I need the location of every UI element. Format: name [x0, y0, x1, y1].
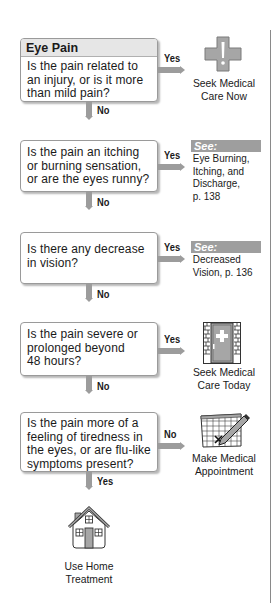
- question-line: Is the pain an itching: [27, 145, 139, 159]
- reference-line: Itching, and: [191, 165, 254, 178]
- question-line: than mild pain?: [27, 86, 110, 100]
- no-arrow: [86, 192, 92, 206]
- reference-line: Eye Burning,: [191, 152, 254, 165]
- reference-line: Discharge,: [191, 177, 254, 190]
- reference-page: p. 138: [191, 190, 254, 203]
- calendar-appointment-icon: [199, 410, 251, 448]
- question-line: symptoms present?: [27, 457, 133, 471]
- yes-arrow: [158, 67, 180, 73]
- question-box-itching: Is the pain an itching or burning sensat…: [20, 140, 158, 192]
- no-arrow: [158, 443, 180, 449]
- flowchart-title: Eye Pain: [21, 39, 157, 57]
- see-tag: See:: [191, 241, 261, 253]
- reference-line: Decreased: [191, 253, 254, 266]
- clinic-door-icon: [203, 322, 241, 364]
- yes-arrow: [158, 348, 180, 354]
- question-line: Is there any decrease: [27, 242, 145, 256]
- outcome-make-appointment: Make Medical Appointment: [188, 452, 260, 478]
- yes-arrow: [158, 256, 180, 262]
- question-line: Is the pain related to: [27, 59, 138, 73]
- no-label: No: [97, 288, 109, 300]
- question-line: in vision?: [27, 256, 78, 270]
- question-line: or are the eyes runny?: [27, 172, 149, 186]
- question-text: Is the pain related to an injury, or is …: [21, 57, 157, 105]
- outcome-seek-care-now: Seek Medical Care Now: [188, 77, 260, 103]
- yes-label: Yes: [164, 333, 180, 345]
- yes-arrow: [86, 472, 92, 486]
- question-box-severe: Is the pain severe or prolonged beyond 4…: [20, 322, 158, 376]
- medical-cross-icon: [204, 36, 242, 72]
- question-text: Is the pain more of a feeling of tiredne…: [21, 413, 157, 475]
- no-arrow: [86, 376, 92, 390]
- home-icon: [67, 505, 111, 549]
- question-box-injury: Eye Pain Is the pain related to an injur…: [20, 38, 158, 102]
- no-label: No: [164, 428, 176, 440]
- no-label: No: [97, 196, 109, 208]
- outcome-line: Make Medical: [192, 452, 257, 465]
- no-label: No: [97, 104, 109, 116]
- no-arrow: [86, 102, 92, 116]
- outcome-line: Care Now: [192, 90, 257, 103]
- page-margin-rule: [270, 30, 271, 603]
- yes-label: Yes: [97, 475, 113, 487]
- question-text: Is the pain an itching or burning sensat…: [21, 141, 157, 191]
- question-line: 48 hours?: [27, 354, 81, 368]
- yes-label: Yes: [164, 241, 180, 253]
- question-text: Is the pain severe or prolonged beyond 4…: [21, 323, 157, 373]
- see-tag: See:: [191, 140, 261, 152]
- outcome-line: Care Today: [192, 379, 257, 392]
- question-line: Is the pain severe or: [27, 327, 138, 341]
- outcome-home-treatment: Use Home Treatment: [53, 560, 125, 586]
- see-reference-decreased-vision[interactable]: See: Decreased Vision, p. 136: [191, 241, 261, 278]
- question-line: or burning sensation,: [27, 159, 141, 173]
- question-line: an injury, or is it more: [27, 73, 143, 87]
- outcome-line: Seek Medical: [192, 366, 257, 379]
- see-reference-eye-burning[interactable]: See: Eye Burning, Itching, and Discharge…: [191, 140, 261, 202]
- no-arrow: [86, 284, 92, 298]
- yes-arrow: [158, 164, 180, 170]
- question-line: prolonged beyond: [27, 341, 125, 355]
- question-box-vision: Is there any decrease in vision?: [20, 232, 158, 284]
- question-text: Is there any decrease in vision?: [21, 233, 157, 274]
- outcome-line: Seek Medical: [192, 77, 257, 90]
- outcome-line: Appointment: [192, 465, 257, 478]
- yes-label: Yes: [164, 149, 180, 161]
- question-line: feeling of tiredness in: [27, 430, 143, 444]
- outcome-line: Treatment: [57, 573, 122, 586]
- question-box-tiredness: Is the pain more of a feeling of tiredne…: [20, 412, 158, 472]
- question-line: the eyes, or are flu-like: [27, 443, 151, 457]
- outcome-line: Use Home: [57, 560, 122, 573]
- no-label: No: [97, 380, 109, 392]
- yes-label: Yes: [164, 52, 180, 64]
- question-line: Is the pain more of a: [27, 416, 139, 430]
- reference-page: Vision, p. 136: [191, 266, 254, 279]
- outcome-seek-care-today: Seek Medical Care Today: [188, 366, 260, 392]
